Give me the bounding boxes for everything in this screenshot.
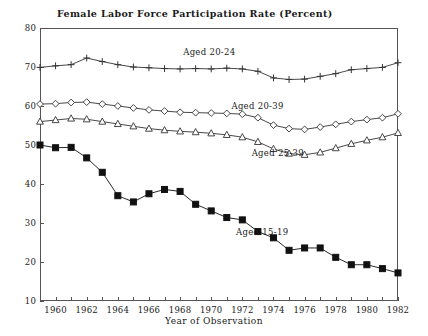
data-point-marker	[224, 215, 230, 221]
data-point-marker	[348, 66, 355, 73]
data-point-marker	[239, 66, 246, 73]
data-point-marker	[332, 70, 339, 77]
data-point-marker	[53, 145, 59, 151]
data-point-marker	[68, 99, 75, 106]
data-point-marker	[270, 75, 277, 82]
y-tick-label: 50	[12, 140, 36, 150]
data-point-marker	[208, 208, 214, 214]
x-axis-title: Year of Observation	[0, 316, 428, 326]
y-tick-label: 40	[12, 179, 36, 189]
data-point-marker	[161, 65, 168, 72]
data-point-marker	[83, 55, 90, 62]
data-point-marker	[161, 108, 168, 115]
data-point-marker	[146, 107, 153, 114]
data-point-marker	[68, 115, 75, 121]
data-point-marker	[348, 262, 354, 268]
data-point-marker	[193, 201, 199, 207]
data-point-marker	[146, 64, 153, 71]
data-point-marker	[270, 122, 277, 129]
data-point-marker	[99, 101, 106, 108]
series-label-aged-20-39: Aged 20-39	[231, 101, 283, 111]
data-point-marker	[239, 111, 246, 118]
data-point-marker	[162, 186, 168, 192]
data-point-marker	[99, 58, 106, 65]
data-point-marker	[395, 129, 402, 135]
data-point-marker	[146, 191, 152, 197]
data-point-marker	[192, 65, 199, 72]
x-tick-mark	[398, 297, 399, 301]
series-line	[40, 58, 398, 79]
data-point-marker	[37, 101, 44, 108]
series-aged-20-39	[37, 99, 402, 133]
data-point-marker	[68, 144, 74, 150]
series-label-aged-20-24: Aged 20-24	[183, 47, 235, 57]
series-label-aged-15-19: Aged 15-19	[236, 227, 288, 237]
data-point-marker	[177, 66, 184, 73]
data-point-marker	[114, 61, 121, 68]
data-point-marker	[286, 76, 293, 83]
data-point-marker	[130, 105, 137, 112]
series-aged-20-24	[37, 55, 402, 83]
data-point-marker	[348, 118, 355, 125]
data-point-marker	[177, 109, 184, 116]
x-tick-label: 1982	[378, 305, 418, 315]
data-point-marker	[301, 76, 308, 83]
data-point-marker	[130, 199, 136, 205]
data-point-marker	[239, 217, 245, 223]
chart-container: Female Labor Force Participation Rate (P…	[0, 0, 428, 336]
data-point-marker	[317, 73, 324, 80]
data-point-marker	[192, 109, 199, 116]
data-point-marker	[130, 64, 137, 71]
data-point-marker	[395, 59, 402, 66]
y-tick-label: 10	[12, 296, 36, 306]
data-point-marker	[208, 110, 215, 117]
data-point-marker	[208, 66, 215, 73]
data-point-marker	[333, 254, 339, 260]
series-aged-15-19	[37, 142, 401, 276]
series-label-aged-25-39: Aged 25-39	[252, 148, 304, 158]
data-point-marker	[317, 124, 324, 131]
y-tick-label: 30	[12, 218, 36, 228]
data-point-marker	[52, 100, 59, 107]
data-point-marker	[223, 65, 230, 72]
y-tick-label: 60	[12, 101, 36, 111]
data-point-marker	[114, 103, 121, 110]
data-point-marker	[317, 245, 323, 251]
data-point-marker	[379, 64, 386, 71]
data-point-marker	[363, 116, 370, 123]
data-point-marker	[363, 65, 370, 72]
y-tick-label: 70	[12, 62, 36, 72]
data-point-marker	[83, 99, 90, 106]
data-point-marker	[84, 155, 90, 161]
data-point-marker	[177, 188, 183, 194]
y-tick-mark	[40, 301, 44, 302]
data-point-marker	[286, 247, 292, 253]
data-point-marker	[68, 61, 75, 68]
data-point-marker	[255, 114, 262, 121]
y-tick-label: 20	[12, 257, 36, 267]
data-point-marker	[37, 64, 44, 71]
data-point-marker	[115, 193, 121, 199]
series-aged-25-39	[37, 115, 402, 157]
data-point-marker	[255, 68, 262, 75]
data-point-marker	[395, 110, 402, 117]
data-point-marker	[302, 245, 308, 251]
data-point-marker	[99, 169, 105, 175]
data-point-marker	[379, 114, 386, 121]
data-point-marker	[37, 142, 43, 148]
data-point-marker	[223, 110, 230, 117]
chart-title: Female Labor Force Participation Rate (P…	[57, 8, 333, 19]
data-point-marker	[379, 266, 385, 272]
data-point-marker	[52, 62, 59, 69]
series-line	[40, 118, 398, 154]
data-point-marker	[332, 121, 339, 128]
data-point-marker	[395, 270, 401, 276]
data-point-marker	[286, 125, 293, 132]
series-plot-layer	[40, 28, 398, 301]
data-point-marker	[301, 126, 308, 133]
series-line	[40, 102, 398, 129]
data-point-marker	[364, 262, 370, 268]
y-tick-label: 80	[12, 23, 36, 33]
series-line	[40, 145, 398, 273]
